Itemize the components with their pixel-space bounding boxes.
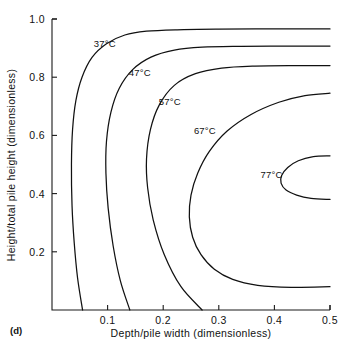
x-tick-label: 0.1 — [100, 314, 116, 326]
contour-line-47 — [106, 46, 330, 310]
x-tick-label: 0.5 — [322, 314, 338, 326]
contour-lines — [71, 29, 330, 310]
contour-label-57: 57°C — [159, 96, 181, 107]
contour-label-77: 77°C — [261, 169, 283, 180]
contour-label-47: 47°C — [129, 67, 151, 78]
x-tick-label: 0.2 — [155, 314, 171, 326]
y-tick-label: 0.4 — [29, 188, 45, 200]
y-tick-label: 0.8 — [29, 71, 45, 83]
tick-labels: 0.10.20.30.40.50.20.40.60.81.0 — [29, 13, 338, 326]
axis-spines — [52, 19, 330, 310]
contour-plot-svg: 0.10.20.30.40.50.20.40.60.81.0 37°C47°C5… — [0, 0, 351, 349]
contour-line-67 — [189, 93, 330, 287]
contour-line-37 — [71, 29, 330, 310]
contour-label-37: 37°C — [94, 38, 116, 49]
panel-label: (d) — [10, 325, 22, 336]
contour-line-77 — [281, 156, 330, 200]
y-axis-title: Height/total pile height (dimensionless) — [5, 69, 17, 261]
y-tick-label: 1.0 — [29, 13, 45, 25]
contour-label-67: 67°C — [194, 125, 216, 136]
x-tick-label: 0.3 — [211, 314, 227, 326]
contour-level-labels: 37°C47°C57°C67°C77°C — [94, 38, 283, 180]
y-tick-label: 0.2 — [29, 246, 45, 258]
x-axis-title: Depth/pile width (dimensionless) — [111, 327, 272, 339]
plot-axes — [52, 19, 330, 310]
contour-figure: 0.10.20.30.40.50.20.40.60.81.0 37°C47°C5… — [0, 0, 351, 349]
x-tick-label: 0.4 — [267, 314, 283, 326]
y-tick-label: 0.6 — [29, 129, 45, 141]
